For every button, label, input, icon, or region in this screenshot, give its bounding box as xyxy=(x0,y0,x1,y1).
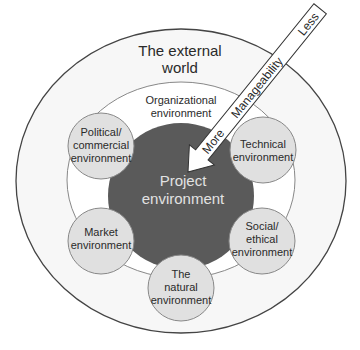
political-label-1: Political/ xyxy=(81,126,123,138)
political-label-3: environment xyxy=(71,152,132,164)
external-world-label-1: The external xyxy=(138,42,221,59)
organizational-label-1: Organizational xyxy=(146,94,217,106)
project-environment-diagram: Political/ commercial environment Techni… xyxy=(0,0,360,350)
project-label-2: environment xyxy=(142,190,225,207)
market-label-2: environment xyxy=(71,239,132,251)
social-label-1: Social/ xyxy=(245,220,279,232)
satellite-market: Market environment xyxy=(68,208,134,274)
natural-label-3: environment xyxy=(151,294,212,306)
organizational-label-2: environment xyxy=(151,107,212,119)
technical-label-2: environment xyxy=(233,151,294,163)
satellite-technical: Technical environment xyxy=(230,117,296,183)
natural-label-1: The xyxy=(172,268,191,280)
satellite-political: Political/ commercial environment xyxy=(68,113,134,179)
natural-label-2: natural xyxy=(164,281,198,293)
project-label-1: Project xyxy=(160,172,208,189)
political-label-2: commercial xyxy=(73,139,129,151)
social-label-2: ethical xyxy=(246,233,278,245)
external-world-label-2: world xyxy=(161,59,198,76)
satellite-social: Social/ ethical environment xyxy=(229,208,295,274)
social-label-3: environment xyxy=(232,246,293,258)
market-label-1: Market xyxy=(84,226,118,238)
satellite-natural: The natural environment xyxy=(148,255,214,321)
technical-label-1: Technical xyxy=(240,138,286,150)
